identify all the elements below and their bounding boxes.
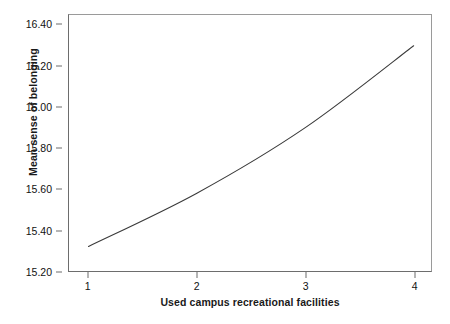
y-tick-mark [56, 189, 62, 190]
series-line-path [89, 46, 414, 247]
x-tick-mark [414, 272, 415, 278]
plot-area [68, 14, 432, 272]
x-axis-ticks: 1234 [68, 272, 432, 298]
y-tick-mark [56, 272, 62, 273]
x-tick-mark [196, 272, 197, 278]
cropped-caption [10, 314, 442, 324]
y-tick-mark [56, 106, 62, 107]
x-tick-label: 4 [412, 280, 418, 292]
y-tick-mark [56, 230, 62, 231]
x-tick-mark [305, 272, 306, 278]
y-axis-title: Mean sense of belonging [27, 0, 39, 227]
x-tick-label: 1 [85, 280, 91, 292]
chart-figure: 15.2015.4015.6015.8016.0016.2016.40 Mean… [0, 0, 450, 324]
y-tick-mark [56, 65, 62, 66]
x-tick-label: 3 [303, 280, 309, 292]
x-tick-label: 2 [194, 280, 200, 292]
line-series-svg [69, 15, 431, 271]
x-axis-title: Used campus recreational facilities [68, 296, 432, 308]
x-tick-mark [87, 272, 88, 278]
y-tick-mark [56, 148, 62, 149]
y-tick-mark [56, 24, 62, 25]
y-tick-label: 15.20 [26, 266, 52, 278]
